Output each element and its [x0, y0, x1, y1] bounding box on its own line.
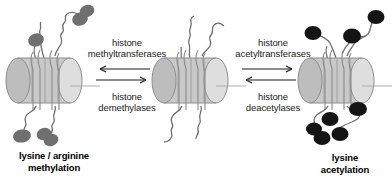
arrow-right-demethylases — [96, 77, 146, 83]
state-label-acetylation-line1: lysine — [300, 152, 390, 164]
reaction-arrows-acetylation-graphic — [240, 64, 298, 86]
enzyme-label-deacetylases-line2: deacetylases — [226, 102, 320, 113]
enzyme-label-demethylases-line1: histone — [83, 91, 171, 102]
reaction-arrows-acetylation — [240, 64, 298, 86]
enzyme-label-methyltransferases-line2: methyltransferases — [83, 48, 171, 59]
state-label-methylation-line2: methylation — [0, 162, 108, 174]
enzyme-label-demethylases-line2: demethylases — [83, 102, 171, 113]
arrow-left-methyltransferases — [100, 66, 150, 72]
reaction-arrows-methylation — [94, 64, 152, 86]
enzyme-label-methyltransferases: histone methyltransferases — [83, 37, 171, 59]
state-label-methylation: lysine / arginine methylation — [0, 150, 108, 173]
state-label-methylation-line1: lysine / arginine — [0, 150, 108, 162]
nucleosome-acetylated — [292, 6, 392, 146]
nucleosome-acetylated-graphic — [292, 6, 392, 146]
enzyme-label-deacetylases-line1: histone — [226, 91, 320, 102]
arrow-right-acetyltransferases — [242, 66, 292, 72]
enzyme-label-acetyltransferases: histone acetyltransferases — [226, 37, 320, 59]
histone-modification-diagram: lysine / arginine methylation — [0, 0, 392, 184]
enzyme-label-acetyltransferases-line2: acetyltransferases — [226, 48, 320, 59]
arrow-left-deacetylases — [246, 77, 296, 83]
reaction-arrows-methylation-graphic — [94, 64, 152, 86]
enzyme-label-demethylases: histone demethylases — [83, 91, 171, 113]
state-label-acetylation-line2: acetylation — [300, 164, 390, 176]
enzyme-label-deacetylases: histone deacetylases — [226, 91, 320, 113]
state-label-acetylation: lysine acetylation — [300, 152, 390, 175]
enzyme-label-methyltransferases-line1: histone — [83, 37, 171, 48]
histone-tails-top — [181, 16, 224, 60]
enzyme-label-acetyltransferases-line1: histone — [226, 37, 320, 48]
